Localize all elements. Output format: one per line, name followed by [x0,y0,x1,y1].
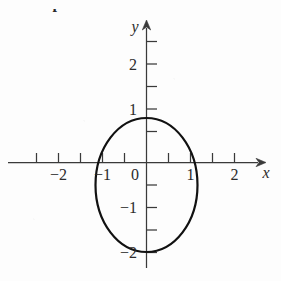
y-tick-marks [147,42,158,253]
origin-label: 0 [131,166,139,183]
y-tick-label--2: −2 [120,244,137,261]
caption-crop-mask [0,0,281,9]
x-tick-label--1: −1 [94,166,111,183]
x-tick-labels: −2 −1 1 2 [50,166,239,183]
y-axis-label: y [129,18,139,36]
x-tick-marks [37,153,235,163]
coordinate-plane-svg: −2 −1 1 2 2 1 −1 −2 0 x y [0,0,281,281]
x-tick-label-2: 2 [231,166,239,183]
x-tick-label--2: −2 [50,166,67,183]
y-tick-label--1: −1 [120,199,137,216]
figure-canvas: −2 −1 1 2 2 1 −1 −2 0 x y [0,0,281,281]
y-tick-labels: 2 1 −1 −2 [120,56,137,261]
axes-group [8,20,266,268]
y-tick-label-1: 1 [129,101,137,118]
y-tick-label-2: 2 [129,56,137,73]
x-axis-label: x [261,164,269,181]
x-tick-label-1: 1 [187,166,195,183]
